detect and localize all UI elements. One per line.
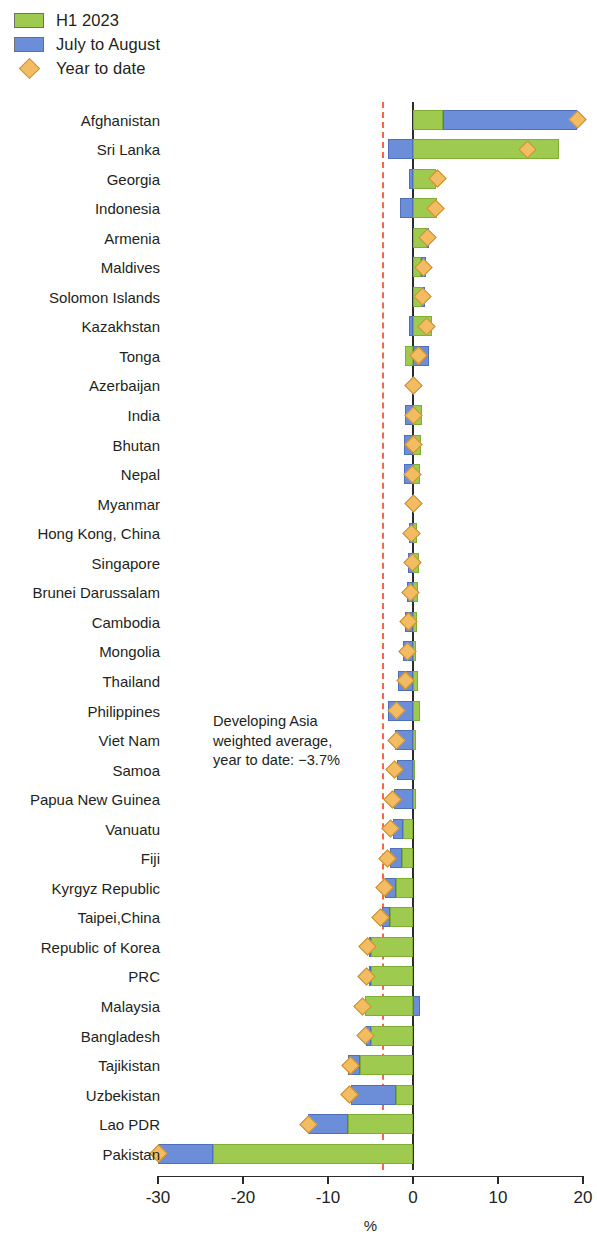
category-label: India	[0, 408, 160, 423]
bar-july-to-august	[400, 198, 413, 218]
category-label: Malaysia	[0, 999, 160, 1014]
category-label: Philippines	[0, 704, 160, 719]
category-label: Pakistan	[0, 1147, 160, 1162]
category-label: Solomon Islands	[0, 290, 160, 305]
x-axis-tick-label: -20	[213, 1189, 273, 1206]
category-label: Maldives	[0, 260, 160, 275]
category-label: Indonesia	[0, 201, 160, 216]
bar-july-to-august	[409, 316, 413, 336]
bar-h1-2023	[390, 907, 413, 927]
x-axis-tick	[497, 1176, 498, 1184]
category-label: Tonga	[0, 349, 160, 364]
x-axis-tick-label: 10	[468, 1189, 528, 1206]
bar-h1-2023	[402, 848, 413, 868]
bar-july-to-august	[443, 110, 577, 130]
bar-h1-2023	[348, 1114, 413, 1134]
category-label: Kyrgyz Republic	[0, 881, 160, 896]
category-label: Georgia	[0, 172, 160, 187]
year-to-date-marker	[402, 524, 420, 542]
year-to-date-marker	[404, 376, 422, 394]
average-annotation: Developing Asia weighted average, year t…	[213, 712, 340, 771]
category-label: Fiji	[0, 851, 160, 866]
x-axis-tick	[157, 1176, 158, 1184]
bar-h1-2023	[213, 1144, 413, 1164]
category-label: Cambodia	[0, 615, 160, 630]
bar-h1-2023	[413, 760, 415, 780]
bar-h1-2023	[413, 789, 416, 809]
x-axis-tick	[327, 1176, 328, 1184]
bar-h1-2023	[365, 996, 413, 1016]
category-label: Mongolia	[0, 644, 160, 659]
category-label: Brunei Darussalam	[0, 585, 160, 600]
category-label: Bhutan	[0, 438, 160, 453]
x-axis-tick	[242, 1176, 243, 1184]
category-label: Republic of Korea	[0, 940, 160, 955]
bar-july-to-august	[409, 169, 413, 189]
category-label: Myanmar	[0, 497, 160, 512]
x-axis-tick-label: 20	[553, 1189, 597, 1206]
category-label: Hong Kong, China	[0, 526, 160, 541]
category-label: Tajikistan	[0, 1058, 160, 1073]
bar-h1-2023	[396, 1085, 413, 1105]
x-axis-tick-label: 0	[383, 1189, 443, 1206]
bar-h1-2023	[413, 730, 416, 750]
category-label: Viet Nam	[0, 733, 160, 748]
category-label: Azerbaijan	[0, 378, 160, 393]
category-label: PRC	[0, 969, 160, 984]
bar-july-to-august	[388, 139, 414, 159]
category-label: Afghanistan	[0, 113, 160, 128]
year-to-date-marker	[404, 494, 422, 512]
bar-h1-2023	[413, 139, 559, 159]
category-label: Armenia	[0, 231, 160, 246]
bar-h1-2023	[413, 110, 443, 130]
category-label: Kazakhstan	[0, 319, 160, 334]
bar-h1-2023	[413, 701, 420, 721]
category-label: Lao PDR	[0, 1117, 160, 1132]
category-label: Thailand	[0, 674, 160, 689]
category-label: Vanuatu	[0, 822, 160, 837]
category-label: Samoa	[0, 763, 160, 778]
x-axis-tick	[412, 1176, 413, 1184]
bar-july-to-august	[413, 996, 420, 1016]
bar-h1-2023	[360, 1055, 413, 1075]
category-label: Uzbekistan	[0, 1088, 160, 1103]
category-label: Bangladesh	[0, 1029, 160, 1044]
bar-h1-2023	[371, 966, 414, 986]
category-label: Nepal	[0, 467, 160, 482]
x-axis	[158, 1176, 583, 1178]
category-label: Papua New Guinea	[0, 792, 160, 807]
bar-h1-2023	[371, 937, 413, 957]
category-label: Sri Lanka	[0, 142, 160, 157]
bar-h1-2023	[371, 1026, 413, 1046]
category-label: Singapore	[0, 556, 160, 571]
bar-h1-2023	[403, 819, 413, 839]
x-axis-title: %	[341, 1218, 401, 1233]
x-axis-tick	[582, 1176, 583, 1184]
x-axis-tick-label: -10	[298, 1189, 358, 1206]
x-axis-tick-label: -30	[128, 1189, 188, 1206]
category-label: Taipei,China	[0, 910, 160, 925]
bar-h1-2023	[396, 878, 413, 898]
